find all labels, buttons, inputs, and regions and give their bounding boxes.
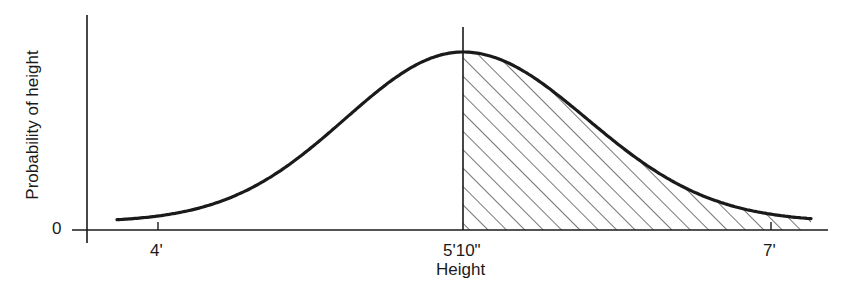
y-axis-label: Probability of height xyxy=(23,50,43,199)
x-tick-label-5ft10: 5'10" xyxy=(443,241,481,261)
x-tick-label-4ft: 4' xyxy=(150,241,163,261)
x-tick-label-7ft: 7' xyxy=(763,241,776,261)
normal-distribution-chart xyxy=(0,0,848,298)
shaded-area-above-mean xyxy=(463,52,811,230)
x-axis-label: Height xyxy=(436,260,485,280)
y-zero-label: 0 xyxy=(52,219,61,239)
